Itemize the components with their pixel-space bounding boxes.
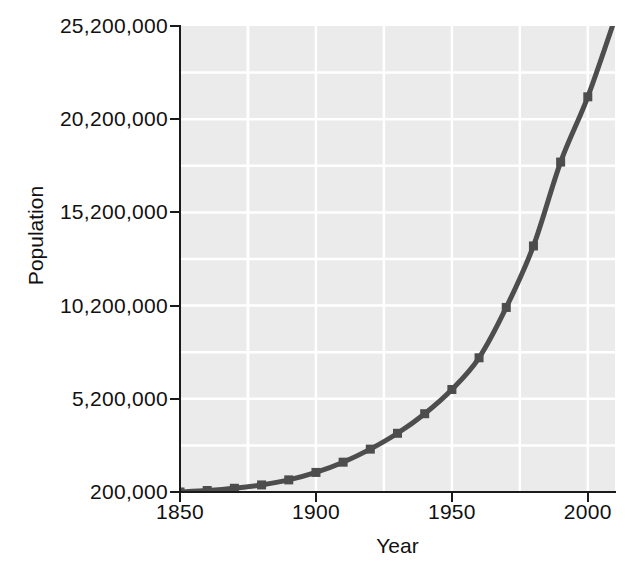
data-markers — [180, 92, 592, 492]
data-point-marker — [529, 241, 538, 250]
y-axis-tick-mark — [170, 398, 179, 400]
data-point-marker — [257, 480, 266, 489]
x-axis-tick-label: 1950 — [412, 501, 492, 523]
y-axis-line — [179, 25, 181, 493]
data-point-marker — [447, 385, 456, 394]
y-axis-title: Population — [25, 156, 46, 316]
gridlines — [180, 26, 615, 492]
x-axis-tick-label: 2000 — [548, 501, 628, 523]
y-axis-tick-mark — [170, 25, 179, 27]
x-axis-tick-label: 1850 — [140, 501, 220, 523]
x-axis-tick-label: 1900 — [276, 501, 356, 523]
y-axis-tick-label: 200,000 — [18, 481, 168, 502]
data-point-marker — [366, 445, 375, 454]
data-point-marker — [583, 92, 592, 101]
data-point-marker — [475, 353, 484, 362]
y-axis-tick-mark — [170, 491, 179, 493]
plot-area — [180, 26, 615, 492]
data-point-marker — [556, 158, 565, 167]
y-axis-tick-label-wrap: 200,000 — [10, 481, 168, 502]
y-axis-tick-mark — [170, 211, 179, 213]
y-axis-tick-mark — [170, 305, 179, 307]
y-axis-tick-label-wrap: 20,200,000 — [10, 108, 168, 129]
y-axis-tick-label-wrap: 25,200,000 — [10, 15, 168, 36]
plot-svg — [180, 26, 615, 492]
y-axis-tick-mark — [170, 118, 179, 120]
data-point-marker — [311, 468, 320, 477]
population-growth-chart: 200,0005,200,00010,200,00015,200,00020,2… — [0, 0, 631, 579]
data-point-marker — [339, 458, 348, 467]
data-point-marker — [393, 429, 402, 438]
data-point-marker — [284, 475, 293, 484]
x-axis-title: Year — [180, 535, 615, 557]
data-point-marker — [420, 409, 429, 418]
x-axis-line — [179, 491, 616, 493]
y-axis-tick-label: 20,200,000 — [18, 108, 168, 129]
y-axis-tick-label-wrap: 5,200,000 — [10, 388, 168, 409]
data-point-marker — [502, 303, 511, 312]
y-axis-tick-label: 5,200,000 — [18, 388, 168, 409]
y-axis-tick-label: 25,200,000 — [18, 15, 168, 36]
